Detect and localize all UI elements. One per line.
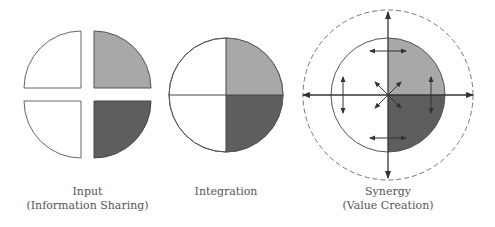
input-label: Input (Information Sharing) bbox=[0, 185, 175, 213]
input-diagram bbox=[24, 31, 151, 158]
synergy-subtitle: (Value Creation) bbox=[318, 199, 458, 213]
integration-label: Integration bbox=[166, 185, 286, 199]
input-quadrant-bottom-left bbox=[24, 101, 81, 158]
synergy-title: Synergy bbox=[318, 185, 458, 199]
integration-quadrant-bottom-right bbox=[226, 95, 283, 152]
integration-title: Integration bbox=[166, 185, 286, 199]
synergy-label: Synergy (Value Creation) bbox=[318, 185, 458, 213]
synergy-diagram bbox=[303, 10, 473, 180]
input-quadrant-top-right bbox=[94, 31, 151, 88]
input-title: Input bbox=[0, 185, 175, 199]
input-quadrant-bottom-right bbox=[94, 101, 151, 158]
integration-diagram bbox=[169, 38, 283, 152]
input-quadrant-top-left bbox=[24, 31, 81, 88]
input-subtitle: (Information Sharing) bbox=[0, 199, 175, 213]
integration-quadrant-top-right bbox=[226, 38, 283, 95]
